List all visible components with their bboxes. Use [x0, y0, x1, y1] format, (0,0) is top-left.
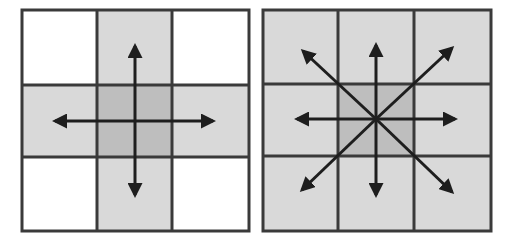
cell-nw [22, 10, 97, 85]
eight-neighborhood-grid [263, 10, 491, 231]
neighborhood-diagrams [0, 0, 508, 246]
cell-ne [172, 10, 249, 85]
four-neighborhood-grid [22, 10, 249, 231]
cell-se [172, 157, 249, 231]
arrows-8 [297, 45, 455, 195]
cell-sw [22, 157, 97, 231]
